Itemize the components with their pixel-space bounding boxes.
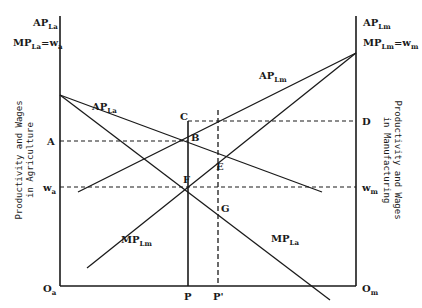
mp-lm-curve-label: MPLm [121,234,153,248]
left-ap-la-label: APLa [32,17,58,31]
point-c: C [180,111,188,122]
mp-la-curve [60,95,330,300]
ap-la-curve-label: APLa [91,101,117,115]
tick-d: D [362,116,371,127]
ap-lm-curve-label: APLm [258,70,287,84]
point-b: B [191,132,199,143]
origin-om: Om [362,283,379,297]
svg-text:in Agriculture: in Agriculture [25,122,35,198]
point-p: P [184,291,192,302]
right-ap-lm-label: APLm [362,17,391,31]
point-e: E [216,161,224,172]
left-axis-title: Productivity and Wages in Agriculture [14,100,35,219]
right-axis-title: Productivity and Wages in Manufacturing [382,100,403,219]
right-mp-lm-wm-label: MPLm=wm [363,37,419,51]
labor-allocation-diagram: APLa MPLa=wa APLm MPLm=wm A wa Oa D wm O… [0,0,422,308]
tick-a: A [46,136,55,147]
tick-wa: wa [42,182,57,196]
origin-oa: Oa [43,283,57,297]
svg-text:Productivity and Wages: Productivity and Wages [14,100,24,219]
left-mp-la-wa-label: MPLa=wa [13,37,63,51]
point-f: F [183,174,190,185]
tick-wm: wm [361,182,379,196]
point-p-prime: P' [213,291,224,302]
mp-la-curve-label: MPLa [271,233,300,247]
point-g: G [221,203,230,214]
svg-text:in Manufacturing: in Manufacturing [382,117,392,204]
svg-text:Productivity and Wages: Productivity and Wages [393,100,403,219]
